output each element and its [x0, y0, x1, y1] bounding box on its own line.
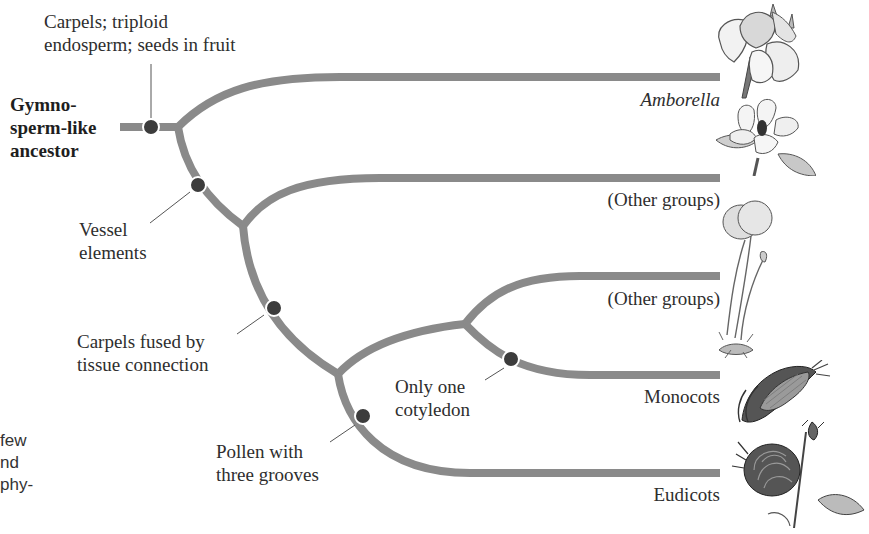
root-label-line: Gymno-: [10, 93, 97, 116]
root-label-line: sperm-like: [10, 116, 97, 139]
corn-ear-icon: [736, 360, 832, 426]
character-label-c2: Vessel elements: [79, 218, 147, 264]
character-label-c1: Carpels; triploid endosperm; seeds in fr…: [44, 10, 236, 56]
character-label-line: cotyledon: [395, 398, 470, 421]
margin-text-line: nd: [0, 452, 33, 474]
leader-line-c5: [330, 425, 355, 442]
rose-flower-icon: [728, 418, 869, 530]
root-label-line: ancestor: [10, 139, 97, 162]
magnolia-flower-icon: [716, 98, 816, 176]
trunk-2: [243, 226, 338, 374]
character-label-line: Vessel: [79, 218, 147, 241]
taxon-label-amborella: Amborella: [640, 88, 720, 111]
leader-line-c4: [485, 368, 504, 380]
character-node-c2: [190, 177, 206, 193]
taxon-label-other-groups-2: (Other groups): [608, 287, 720, 310]
character-label-c4: Only one cotyledon: [395, 375, 470, 421]
character-label-line: elements: [79, 241, 147, 264]
phylogeny-figure: Gymno- sperm-like ancestor Carpels; trip…: [0, 0, 869, 534]
character-label-line: Carpels fused by: [77, 330, 208, 353]
character-label-line: Pollen with: [216, 440, 319, 463]
character-node-c3: [266, 300, 282, 316]
trunk-3: [338, 324, 465, 374]
character-node-c1: [143, 119, 159, 135]
water-lily-plant-icon: [717, 200, 777, 358]
character-label-line: endosperm; seeds in fruit: [44, 33, 236, 56]
character-node-c4: [503, 351, 519, 367]
character-node-c5: [355, 408, 371, 424]
character-label-line: tissue connection: [77, 353, 208, 376]
taxon-label-monocots: Monocots: [644, 385, 720, 408]
character-label-c3: Carpels fused by tissue connection: [77, 330, 208, 376]
character-label-line: Only one: [395, 375, 470, 398]
branch-amborella: [178, 77, 720, 127]
margin-text-line: few: [0, 430, 33, 452]
trunk-1: [178, 127, 243, 226]
branch-monocots: [465, 324, 720, 375]
amborella-flower-icon: [712, 2, 807, 102]
character-label-line: three grooves: [216, 463, 319, 486]
character-label-c5: Pollen with three grooves: [216, 440, 319, 486]
margin-text-line: phy-: [0, 474, 33, 496]
character-label-line: Carpels; triploid: [44, 10, 236, 33]
taxon-label-eudicots: Eudicots: [654, 483, 721, 506]
taxon-label-other-groups-1: (Other groups): [608, 188, 720, 211]
root-label: Gymno- sperm-like ancestor: [10, 93, 97, 162]
leader-line-c3: [237, 315, 264, 334]
margin-text-fragment: few nd phy-: [0, 430, 33, 496]
leader-line-c2: [150, 192, 190, 223]
